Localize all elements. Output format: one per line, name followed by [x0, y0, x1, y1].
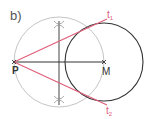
- tangent-t1-label: t1: [107, 9, 114, 21]
- figure-label: b): [10, 8, 22, 23]
- point-p-label: P: [12, 65, 19, 76]
- geometry-diagram: b) P M t1 t2: [0, 0, 150, 119]
- tangent-t2-label: t2: [106, 105, 113, 117]
- point-m-label: M: [102, 66, 110, 77]
